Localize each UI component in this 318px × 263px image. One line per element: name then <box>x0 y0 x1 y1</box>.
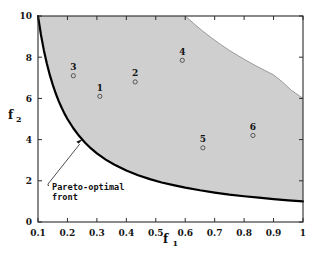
x-axis-title-subscript: 1 <box>173 238 179 248</box>
x-tick-label: 1 <box>300 228 306 238</box>
data-point-label: 1 <box>97 83 103 93</box>
y-tick-label: 10 <box>19 11 32 21</box>
annotation-line-2: front <box>52 192 78 202</box>
x-tick-label: 0.2 <box>60 228 76 238</box>
y-tick-label: 8 <box>26 53 32 63</box>
annotation-line-1: Pareto-optimal <box>52 182 124 192</box>
data-point-label: 6 <box>250 122 256 132</box>
x-tick-label: 0.7 <box>207 228 223 238</box>
x-tick-label: 0.6 <box>177 228 193 238</box>
chart-figure: 0.10.20.30.40.50.60.70.80.910246810 1234… <box>0 0 318 263</box>
data-point-label: 3 <box>70 62 76 72</box>
y-axis-title-subscript: 2 <box>16 114 22 124</box>
y-tick-label: 4 <box>26 135 32 145</box>
x-tick-label: 0.3 <box>89 228 105 238</box>
x-tick-label: 0.4 <box>118 228 134 238</box>
x-tick-label: 0.8 <box>236 228 252 238</box>
data-point-label: 5 <box>200 134 206 144</box>
data-point-label: 4 <box>179 47 185 57</box>
y-tick-label: 6 <box>26 94 32 104</box>
data-point-label: 2 <box>132 68 138 78</box>
x-tick-label: 0.1 <box>30 228 46 238</box>
x-tick-label: 0.9 <box>266 228 282 238</box>
x-axis-title: f <box>163 232 169 246</box>
pareto-front-chart: 0.10.20.30.40.50.60.70.80.910246810 1234… <box>0 0 318 263</box>
x-tick-label: 0.5 <box>148 228 164 238</box>
y-tick-label: 0 <box>26 217 32 227</box>
y-tick-label: 2 <box>26 176 32 186</box>
svg-text:f: f <box>8 108 14 122</box>
